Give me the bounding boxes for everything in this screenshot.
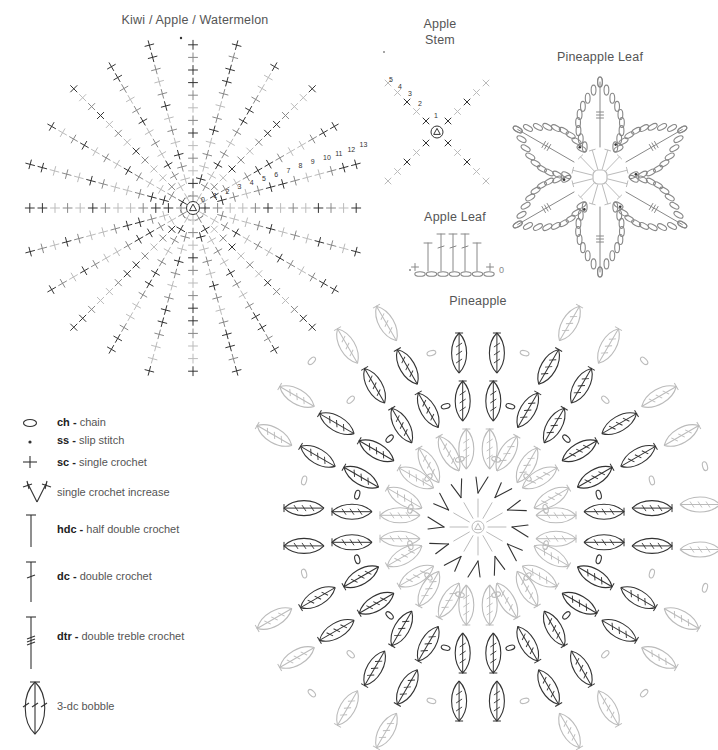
hdc-t-icon [20, 513, 44, 549]
legend-item-chain: ch - chain [57, 416, 106, 428]
legend-item-double-treble-crochet: dtr - double treble crochet [57, 630, 184, 642]
slip-stitch-dot-icon [20, 434, 44, 448]
dtr-icon [20, 615, 44, 671]
legend-item-double-crochet: dc - double crochet [57, 570, 152, 582]
legend-item-slip-stitch: ss - slip stitch [57, 434, 124, 446]
legend-item-half-double-crochet: hdc - half double crochet [57, 523, 179, 535]
chain-oval-icon [20, 416, 44, 430]
single-crochet-plus-icon [20, 454, 44, 470]
dc-icon [20, 560, 44, 604]
sc-increase-v-icon [22, 480, 54, 506]
bobble-icon [20, 680, 54, 736]
stitch-legend: ch - chain ss - slip stitch sc - single … [0, 0, 260, 750]
legend-item-sc-increase: single crochet increase [57, 486, 170, 498]
legend-item-bobble: 3-dc bobble [57, 700, 115, 712]
legend-item-single-crochet: sc - single crochet [57, 456, 147, 468]
